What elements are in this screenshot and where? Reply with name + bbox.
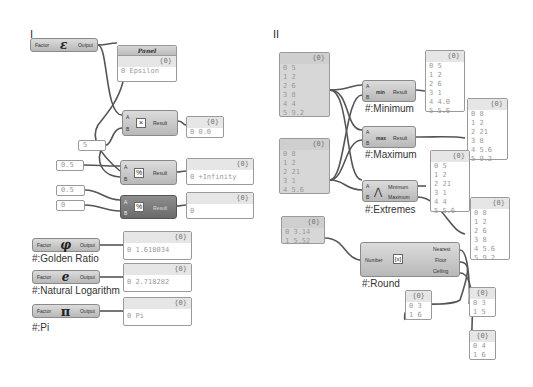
divide-icon: % (134, 168, 144, 178)
output-label: Output (80, 274, 95, 280)
panel-row: 2 21 (280, 168, 329, 177)
panel-maximum[interactable]: {0} 0 8 1 2 2 21 3 8 4 5.6 5 9.2 (467, 98, 508, 160)
pi-component[interactable]: Factor π Output (32, 304, 100, 318)
panel-title: Panel (118, 46, 176, 56)
epsilon-icon: ε (60, 38, 67, 52)
panel-divide[interactable]: {0} 0 +Infinity (186, 158, 254, 185)
panel-row: 3 1 (280, 177, 329, 186)
divide-error-component[interactable]: A B % Result (120, 195, 177, 219)
panel-row: 3 8 (471, 236, 509, 245)
panel-row: 0 8 (280, 150, 329, 159)
panel-row: 1 2 (468, 119, 507, 128)
extremes-icon: ⋀ (374, 186, 382, 197)
panel-row: 0 8 (471, 209, 509, 218)
panel-row: 5 9.2 (280, 109, 329, 118)
component-label: #:Golden Ratio (32, 253, 99, 264)
panel-path: {0} (282, 217, 324, 228)
panel-row: 4 4 (280, 100, 329, 109)
phi-icon: φ (60, 238, 71, 252)
number-slider-0[interactable]: 0 (56, 200, 85, 211)
number-slider-0-5-b[interactable]: 0.5 (56, 185, 85, 196)
panel-round-nearest[interactable]: {0} 0 3 1 6 (405, 290, 432, 320)
panel-round-floor[interactable]: {0} 0 3 1 5 (469, 287, 496, 317)
panel-path: {0} (406, 291, 431, 302)
panel-row: 0 3 (470, 299, 495, 308)
minimum-component[interactable]: A B min Result (362, 80, 416, 102)
minimum-output-label: Minimum (388, 184, 408, 190)
golden-ratio-component[interactable]: Factor φ Output (32, 238, 100, 252)
panel-row: 0 8 (468, 110, 507, 119)
panel-path: {0} (426, 51, 464, 62)
section-label-two: II (273, 28, 279, 40)
input-b-label: B (124, 210, 127, 216)
panel-row: 0 5 (426, 62, 464, 71)
input-a-label: A (366, 183, 369, 189)
panel-round-input[interactable]: {0} 0 3.14 1 5.52 (281, 216, 325, 244)
panel-row: 3 8 (280, 91, 329, 100)
epsilon-component[interactable]: Factor ε Output (30, 38, 98, 52)
panel-row: 0 3.14 (282, 228, 324, 237)
panel-row: 0 0.0 (187, 128, 223, 137)
panel-extremes-max[interactable]: {0} 0 8 1 2 2 6 3 8 4 5.6 5 9.2 (470, 197, 510, 260)
input-a-label: A (126, 114, 129, 120)
multiply-component[interactable]: A B × Result (122, 110, 178, 136)
panel-row: 0 2.718282 (124, 275, 191, 287)
number-slider-0-5[interactable]: 0.5 (56, 160, 84, 171)
component-label: #:Natural Logarithm (32, 285, 120, 296)
panel-row: 4 5.6 (471, 245, 509, 254)
divide-icon: % (134, 202, 144, 212)
number-slider-5[interactable]: 5 (78, 140, 106, 151)
panel-list-b[interactable]: {0} 0 8 1 2 2 21 3 1 4 5.6 (279, 138, 330, 194)
e-icon: e (62, 270, 70, 284)
panel-row: 2 21 (431, 180, 469, 189)
number-input-label: Number (365, 257, 383, 263)
panel-row: 1 2 (426, 71, 464, 80)
panel-extremes-min[interactable]: {0} 0 5 1 2 2 21 3 1 4 4 5 5.6 (430, 150, 470, 212)
panel-epsilon[interactable]: Panel {0} 0 Epsilon (117, 45, 177, 82)
panel-path: {0} (471, 198, 509, 209)
panel-path: {0} (187, 159, 253, 170)
panel-row: 3 1 (426, 89, 464, 98)
panel-row: 0 5 (431, 162, 469, 171)
floor-output-label: Floor (435, 257, 446, 263)
maximum-component[interactable]: A B max Result (362, 126, 416, 148)
max-icon: max (376, 135, 386, 141)
output-label: Output (78, 42, 93, 48)
input-a-label: A (124, 199, 127, 205)
panel-row: 5 9.2 (471, 254, 509, 263)
panel-row: 0 3 (406, 302, 431, 311)
panel-path: {0} (431, 151, 469, 162)
input-label: Factor (35, 42, 49, 48)
panel-row: 0 +Infinity (187, 170, 253, 182)
panel-row: 2 21 (468, 128, 507, 137)
multiply-icon: × (136, 118, 146, 128)
panel-row: 3 1 (431, 189, 469, 198)
panel-pi[interactable]: {0} 0 Pi (123, 297, 192, 326)
component-label: #:Minimum (365, 103, 414, 114)
panel-row: 1 2 (431, 171, 469, 180)
panel-round-ceiling[interactable]: {0} 0 4 1 6 (469, 330, 496, 360)
input-b-label: B (366, 140, 369, 146)
panel-minimum[interactable]: {0} 0 5 1 2 2 6 3 1 4 4.0 5 5.6 (425, 50, 465, 112)
natural-log-component[interactable]: Factor e Output (32, 270, 100, 284)
panel-multiply[interactable]: {0} 0 0.0 (186, 116, 224, 138)
divide-component[interactable]: A B % Result (120, 160, 177, 185)
input-b-label: B (366, 94, 369, 100)
panel-divide-error[interactable]: {0} 0 (186, 192, 254, 219)
input-b-label: B (366, 194, 369, 200)
panel-golden-ratio[interactable]: {0} 0 1.618034 (123, 231, 192, 260)
component-label: #:Round (362, 278, 400, 289)
panel-natural-log[interactable]: {0} 0 2.718282 (123, 263, 192, 292)
panel-row: 4 4.0 (426, 98, 464, 107)
extremes-component[interactable]: A B ⋀ Minimum Maximum (362, 180, 418, 202)
maximum-output-label: Maximum (388, 194, 410, 200)
panel-row: 2 6 (426, 80, 464, 89)
panel-path: {0} (124, 232, 191, 243)
panel-row: 1 5 (470, 308, 495, 317)
panel-path: {0} (280, 53, 329, 64)
round-component[interactable]: Number [x] Nearest Floor Ceiling (360, 242, 460, 277)
component-label: #:Extremes (365, 204, 416, 215)
component-label: #:Pi (32, 322, 49, 333)
panel-row: 0 Epsilon (118, 67, 176, 76)
panel-list-a[interactable]: {0} 0 5 1 2 2 6 3 8 4 4 5 9.2 (279, 52, 330, 117)
